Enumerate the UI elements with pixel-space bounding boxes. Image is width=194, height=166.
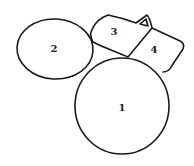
region-1: 1 xyxy=(75,58,169,154)
region-diagram: 2 3 4 1 xyxy=(0,0,194,166)
region-4-label: 4 xyxy=(151,44,158,55)
region-3-label: 3 xyxy=(111,26,118,37)
region-1-label: 1 xyxy=(119,102,126,113)
region-4: 4 xyxy=(151,28,184,72)
region-2-label: 2 xyxy=(51,43,58,54)
region-2: 2 xyxy=(15,17,94,81)
